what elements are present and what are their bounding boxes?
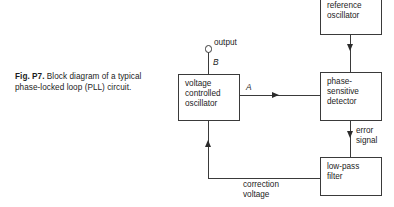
psd-line-1: phase- [327, 77, 381, 87]
figure-caption: Fig. P7. Block diagram of a typical phas… [15, 71, 165, 94]
arrowhead-feedback-to-vco [205, 140, 211, 147]
label-node-a: A [246, 82, 252, 92]
block-voltage-controlled-oscillator[interactable]: voltage controlled oscillator [178, 74, 240, 121]
arrowhead-mro-to-psd [347, 44, 353, 51]
psd-line-2: sensitive [327, 87, 381, 97]
wire-mro-to-psd [350, 35, 351, 72]
vco-line-2: controlled [185, 89, 239, 99]
label-correction-voltage-line-2: voltage [243, 190, 269, 200]
wire-feedback-horizontal [208, 178, 321, 179]
wire-vco-to-psd [240, 95, 320, 96]
label-output: output [214, 38, 237, 48]
arrowhead-psd-to-lpf [347, 131, 353, 138]
lpf-line-1: low-pass [327, 162, 381, 172]
arrowhead-vco-to-psd [272, 92, 279, 98]
label-error-signal-line-2: signal [356, 136, 377, 146]
wire-output-stub [208, 52, 209, 74]
mro-line-2: reference [327, 1, 381, 11]
label-error-signal-line-1: error [356, 126, 373, 136]
vco-line-3: oscillator [185, 99, 239, 109]
wire-feedback-vertical [208, 121, 209, 179]
output-terminal-node[interactable] [205, 45, 213, 53]
block-phase-sensitive-detector[interactable]: phase- sensitive detector [320, 72, 382, 121]
figure-canvas: Fig. P7. Block diagram of a typical phas… [0, 0, 394, 207]
mro-line-3: oscillator [327, 11, 381, 21]
block-low-pass-filter[interactable]: low-pass filter [320, 157, 382, 196]
vco-line-1: voltage [185, 79, 239, 89]
label-correction-voltage-line-1: correction [243, 180, 279, 190]
figure-number: Fig. P7. [15, 72, 45, 81]
lpf-line-2: filter [327, 172, 381, 182]
label-node-b: B [213, 57, 219, 67]
block-master-reference-oscillator[interactable]: master reference oscillator [320, 0, 382, 35]
wire-psd-to-lpf [350, 121, 351, 157]
psd-line-3: detector [327, 97, 381, 107]
